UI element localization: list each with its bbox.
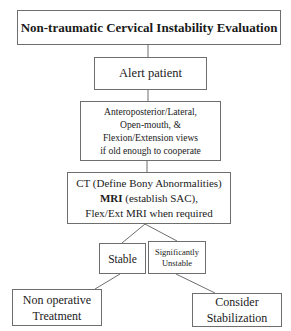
views-line-1: Anteroposterior/Lateral,: [104, 105, 197, 118]
alert-patient-box: Alert patient: [94, 57, 207, 90]
non-operative-line-1: Non operative: [23, 292, 91, 308]
ct-mri-box: CT (Define Bony Abnormalities) MRI (esta…: [67, 172, 231, 224]
alert-patient-label: Alert patient: [119, 66, 182, 81]
flowchart-title: Non-traumatic Cervical Instability Evalu…: [21, 20, 278, 36]
consider-line-1: Consider: [215, 294, 258, 310]
unstable-line-1: Significantly: [155, 247, 199, 258]
radiograph-views-box: Anteroposterior/Lateral, Open-mouth, & F…: [80, 101, 221, 161]
non-operative-line-2: Treatment: [33, 308, 82, 324]
non-operative-box: Non operative Treatment: [12, 289, 102, 326]
consider-line-2: Stabilization: [207, 310, 268, 326]
unstable-line-2: Unstable: [162, 258, 192, 269]
views-line-4: if old enough to cooperate: [100, 144, 201, 157]
mri-bold-label: MRI: [100, 192, 123, 204]
mri-detail: (establish SAC),: [123, 192, 198, 204]
views-line-2: Open-mouth, &: [120, 118, 181, 131]
views-line-3: Flexion/Extension views: [103, 131, 198, 144]
title-box: Non-traumatic Cervical Instability Evalu…: [17, 10, 281, 45]
unstable-box: Significantly Unstable: [148, 241, 206, 274]
imaging-line-1: CT (Define Bony Abnormalities): [76, 176, 222, 191]
stable-box: Stable: [99, 243, 146, 274]
imaging-line-3: Flex/Ext MRI when required: [85, 206, 212, 221]
connector-lines: [0, 0, 291, 331]
imaging-line-2: MRI (establish SAC),: [100, 191, 198, 206]
consider-stabilization-box: Consider Stabilization: [192, 293, 282, 327]
stable-label: Stable: [108, 253, 137, 265]
